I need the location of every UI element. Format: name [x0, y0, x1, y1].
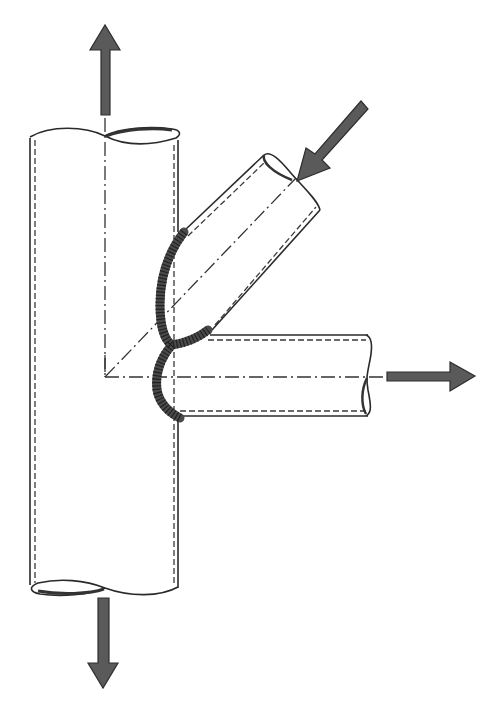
weld-seam [157, 232, 208, 418]
horizontal-brace-tube [105, 335, 385, 416]
tubular-joint-diagram [0, 0, 498, 709]
load-arrow-top [90, 25, 120, 115]
load-arrow-bottom [88, 598, 118, 688]
load-arrow-horizontal [387, 362, 475, 391]
load-arrow-diagonal [297, 101, 368, 181]
diagonal-brace-tube [105, 154, 320, 378]
